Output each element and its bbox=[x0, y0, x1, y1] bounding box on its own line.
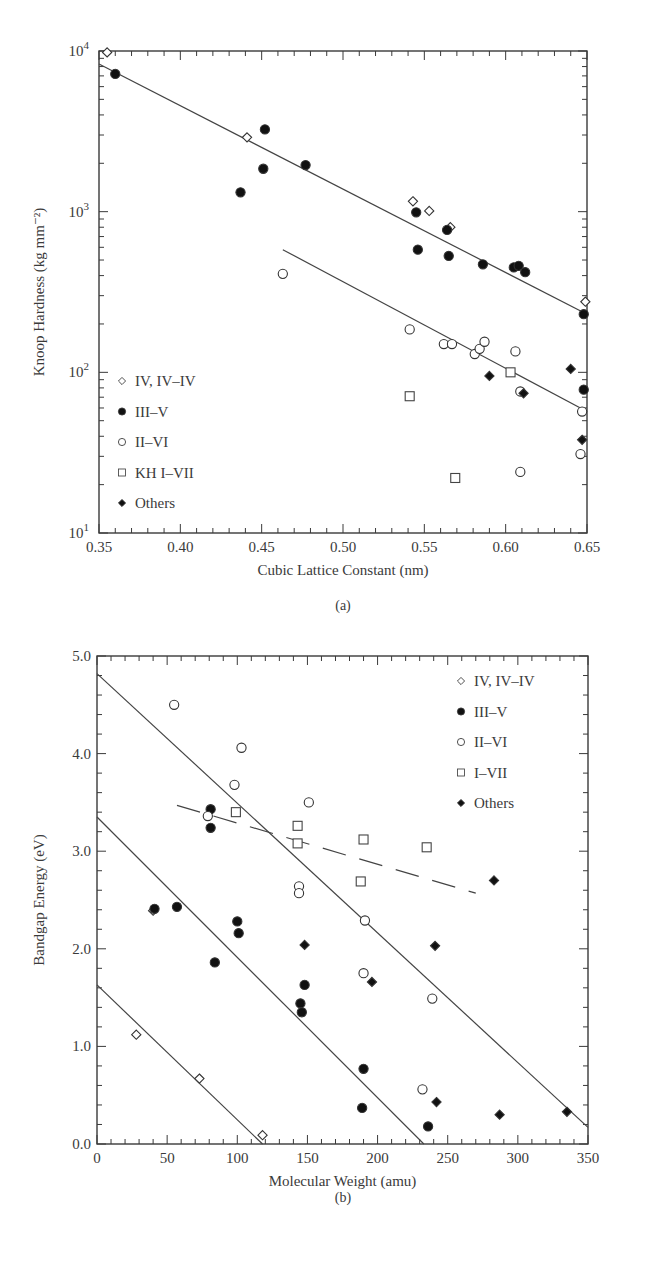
filled-circle-marker bbox=[210, 958, 219, 967]
open-circle-marker bbox=[511, 347, 520, 356]
filled-diamond-marker bbox=[489, 876, 498, 885]
chart-b-bandgap-energy: 0501001502002503003500.01.02.03.04.05.0M… bbox=[31, 648, 599, 1190]
legend-label: KH I–VII bbox=[135, 465, 194, 481]
open-square-marker bbox=[405, 392, 414, 401]
open-diamond-marker bbox=[103, 48, 112, 57]
x-tick-label: 350 bbox=[577, 1150, 600, 1166]
x-tick-label: 0.35 bbox=[86, 539, 112, 555]
filled-diamond-marker bbox=[367, 977, 376, 986]
filled-circle-marker bbox=[358, 1103, 367, 1112]
filled-circle-marker bbox=[521, 268, 530, 277]
y-axis-title: Bandgap Energy (eV) bbox=[31, 834, 48, 965]
chart-a-knoop-hardness: 0.350.400.450.500.550.600.65101102103104… bbox=[31, 39, 600, 579]
open-circle-marker bbox=[578, 407, 587, 416]
open-square-marker bbox=[457, 769, 464, 776]
filled-circle-marker bbox=[118, 408, 125, 415]
x-tick-label: 0.65 bbox=[574, 539, 600, 555]
filled-diamond-marker bbox=[485, 371, 494, 380]
open-diamond-marker bbox=[425, 206, 434, 215]
filled-diamond-marker bbox=[430, 941, 439, 950]
y-tick-label: 2.0 bbox=[72, 941, 91, 957]
filled-circle-marker bbox=[236, 188, 245, 197]
open-square-marker bbox=[506, 368, 515, 377]
filled-circle-marker bbox=[260, 125, 269, 134]
filled-diamond-marker bbox=[495, 1110, 504, 1119]
filled-circle-marker bbox=[423, 1122, 432, 1131]
open-circle-marker bbox=[405, 325, 414, 334]
x-tick-label: 0 bbox=[93, 1150, 101, 1166]
x-tick-label: 0.55 bbox=[411, 539, 437, 555]
filled-circle-marker bbox=[478, 260, 487, 269]
open-square-marker bbox=[359, 835, 368, 844]
legend: IV, IV–IVIII–VII–VII–VIIOthers bbox=[457, 673, 534, 811]
x-tick-label: 50 bbox=[160, 1150, 175, 1166]
x-tick-label: 300 bbox=[507, 1150, 530, 1166]
open-square-marker bbox=[422, 843, 431, 852]
filled-circle-marker bbox=[300, 980, 309, 989]
x-axis-title: Molecular Weight (amu) bbox=[269, 1173, 417, 1190]
open-circle-marker bbox=[278, 269, 287, 278]
legend-label: III–V bbox=[474, 704, 507, 720]
x-tick-label: 150 bbox=[296, 1150, 319, 1166]
open-diamond-marker bbox=[581, 297, 590, 306]
open-square-marker bbox=[451, 473, 460, 482]
filled-circle-marker bbox=[111, 69, 120, 78]
open-square-marker bbox=[356, 877, 365, 886]
y-tick-label: 4.0 bbox=[72, 746, 91, 762]
filled-circle-marker bbox=[297, 1008, 306, 1017]
filled-circle-marker bbox=[234, 929, 243, 938]
solid-fit-line bbox=[99, 64, 587, 314]
y-tick-label: 3.0 bbox=[72, 843, 91, 859]
open-circle-marker bbox=[118, 438, 125, 445]
filled-circle-marker bbox=[457, 708, 464, 715]
filled-diamond-marker bbox=[566, 364, 575, 373]
series-i-vii bbox=[231, 808, 431, 886]
filled-diamond-marker bbox=[300, 940, 309, 949]
x-axis-title: Cubic Lattice Constant (nm) bbox=[257, 562, 428, 579]
open-square-marker bbox=[293, 839, 302, 848]
open-circle-marker bbox=[418, 1085, 427, 1094]
legend: IV, IV–IVIII–VII–VIKH I–VIIOthers bbox=[118, 373, 195, 511]
open-circle-marker bbox=[359, 969, 368, 978]
open-circle-marker bbox=[203, 811, 212, 820]
y-tick-label: 104 bbox=[69, 39, 90, 59]
series-ii-vi bbox=[278, 269, 587, 476]
filled-circle-marker bbox=[579, 385, 588, 394]
open-diamond-marker bbox=[132, 1030, 141, 1039]
open-circle-marker bbox=[576, 449, 585, 458]
series-others bbox=[485, 364, 587, 444]
open-circle-marker bbox=[447, 339, 456, 348]
open-circle-marker bbox=[230, 780, 239, 789]
series-iii-v bbox=[111, 69, 589, 394]
filled-circle-marker bbox=[301, 160, 310, 169]
legend-label: II–VI bbox=[135, 434, 168, 450]
filled-circle-marker bbox=[413, 245, 422, 254]
legend-label: Others bbox=[135, 495, 175, 511]
x-tick-label: 100 bbox=[226, 1150, 249, 1166]
y-tick-label: 5.0 bbox=[72, 648, 91, 664]
y-tick-label: 1.0 bbox=[72, 1038, 91, 1054]
x-tick-label: 0.45 bbox=[249, 539, 275, 555]
y-tick-label: 0.0 bbox=[72, 1136, 91, 1152]
filled-diamond-marker bbox=[457, 799, 464, 806]
filled-circle-marker bbox=[172, 902, 181, 911]
legend-label: Others bbox=[474, 795, 514, 811]
open-diamond-marker bbox=[457, 677, 464, 684]
x-tick-label: 0.40 bbox=[167, 539, 193, 555]
legend-label: IV, IV–IV bbox=[135, 373, 196, 389]
filled-circle-marker bbox=[233, 917, 242, 926]
y-tick-label: 101 bbox=[69, 521, 90, 541]
filled-circle-marker bbox=[412, 208, 421, 217]
open-square-marker bbox=[293, 821, 302, 830]
x-tick-label: 0.50 bbox=[330, 539, 356, 555]
legend-label: II–VI bbox=[474, 734, 507, 750]
filled-circle-marker bbox=[296, 999, 305, 1008]
filled-circle-marker bbox=[150, 904, 159, 913]
legend-label: I–VII bbox=[474, 765, 507, 781]
solid-fit-line bbox=[283, 250, 587, 412]
solid-fit-line bbox=[97, 985, 263, 1144]
solid-fit-line bbox=[97, 674, 588, 1128]
chart-a-panel-label: (a) bbox=[335, 598, 351, 614]
open-square-marker bbox=[231, 808, 240, 817]
open-circle-marker bbox=[516, 467, 525, 476]
